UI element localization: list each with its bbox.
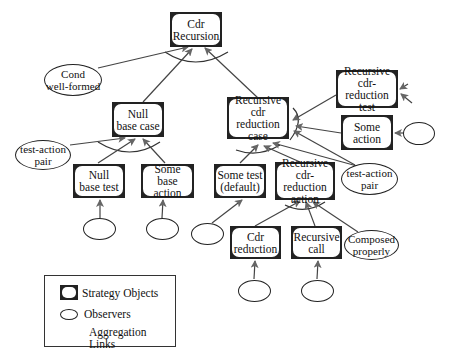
legend-observers: Observers — [60, 308, 131, 320]
node-cdr-recursion-label: Cdr Recursion — [172, 14, 220, 45]
node-recursive-cdr-reduction-case: Recursive cdr reduction case — [227, 97, 289, 139]
observer-test-action-pair-left: test-action pair — [15, 140, 71, 170]
observer-composed-properly: Composed properly — [344, 230, 399, 260]
observer-cdr-reduction — [238, 280, 271, 302]
node-some-action-label: Some action — [343, 117, 391, 148]
node-recursive-cdr-reduction-case-label: Recursive cdr reduction case — [229, 99, 287, 137]
node-null-base-test: Null base test — [73, 164, 125, 198]
observer-some-action — [403, 122, 435, 145]
node-recursive-cdr-reduction-test: Recursive cdr-reduction test — [336, 70, 398, 108]
observer-test-action-pair-right: test-action pair — [341, 163, 398, 195]
node-cdr-recursion: Cdr Recursion — [170, 12, 222, 47]
legend-strategy-objects: Strategy Objects — [60, 285, 158, 300]
observer-some-base-action — [146, 218, 179, 240]
node-some-test-default: Some test (default) — [214, 164, 266, 198]
node-some-test-default-label: Some test (default) — [216, 166, 264, 196]
legend-observers-label: Observers — [84, 308, 131, 320]
node-recursive-cdr-reduction-action-label: Recursive cdr-reduction action — [277, 164, 333, 198]
legend: Strategy Objects Observers Aggregation L… — [44, 275, 176, 347]
node-some-base-action: Some base action — [141, 164, 194, 198]
node-recursive-cdr-reduction-action: Recursive cdr-reduction action — [275, 162, 335, 200]
observer-swatch-icon — [60, 309, 78, 320]
observer-null-base-test — [83, 218, 116, 240]
node-cdr-reduction-label: Cdr reduction — [232, 228, 279, 257]
node-recursive-call-label: Recursive call — [293, 228, 340, 257]
node-null-base-case-label: Null base case — [114, 104, 162, 135]
node-recursive-call: Recursive call — [291, 226, 342, 259]
observer-cond-well-formed: Cond well-formed — [44, 64, 102, 96]
strategy-object-swatch-icon — [60, 285, 78, 300]
observer-some-test-default — [191, 223, 224, 245]
node-recursive-cdr-reduction-test-label: Recursive cdr-reduction test — [338, 72, 396, 106]
node-cdr-reduction: Cdr reduction — [230, 226, 281, 259]
legend-strategy-objects-label: Strategy Objects — [82, 287, 158, 299]
observer-recursive-call — [301, 280, 334, 302]
node-some-action: Some action — [341, 115, 393, 150]
node-some-base-action-label: Some base action — [143, 166, 192, 196]
legend-aggregation-links-label: Aggregation Links — [89, 326, 175, 350]
node-null-base-test-label: Null base test — [75, 166, 123, 196]
node-null-base-case: Null base case — [112, 102, 164, 137]
legend-aggregation-links: Aggregation Links — [89, 326, 175, 350]
